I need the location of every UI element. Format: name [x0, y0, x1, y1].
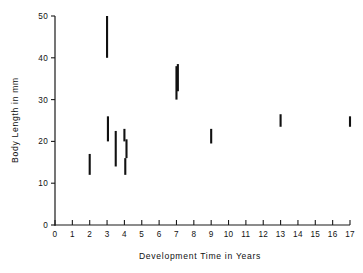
x-tick-label-8: 8 [191, 230, 196, 239]
chart-container: 01020304050 01234567891011121314151617 D… [0, 0, 363, 273]
x-tick-label-9: 9 [209, 230, 214, 239]
y-tick-label-30: 30 [38, 96, 48, 105]
x-axis-ticks [55, 220, 350, 225]
x-tick-label-12: 12 [258, 230, 268, 239]
x-tick-label-4: 4 [122, 230, 127, 239]
x-tick-label-17: 17 [345, 230, 355, 239]
x-tick-label-7: 7 [174, 230, 179, 239]
x-tick-label-15: 15 [310, 230, 320, 239]
y-axis-tick-labels: 01020304050 [38, 12, 48, 230]
x-tick-label-16: 16 [328, 230, 338, 239]
data-series-layer [90, 16, 350, 175]
y-tick-label-50: 50 [38, 12, 48, 21]
x-tick-label-3: 3 [105, 230, 110, 239]
y-axis: 01020304050 [38, 12, 55, 230]
x-axis-title: Development Time in Years [139, 251, 261, 261]
x-tick-label-6: 6 [157, 230, 162, 239]
y-axis-title: Body Length in mm [10, 77, 20, 163]
x-tick-label-13: 13 [276, 230, 286, 239]
body-length-vs-development-time-chart: 01020304050 01234567891011121314151617 D… [0, 0, 363, 273]
series-0 [90, 16, 350, 175]
x-tick-label-2: 2 [87, 230, 92, 239]
y-tick-label-10: 10 [38, 179, 48, 188]
y-tick-label-0: 0 [43, 221, 48, 230]
x-tick-label-11: 11 [241, 230, 250, 239]
y-tick-label-40: 40 [38, 54, 48, 63]
x-tick-label-5: 5 [139, 230, 144, 239]
x-axis-tick-labels: 01234567891011121314151617 [53, 230, 355, 239]
x-tick-label-10: 10 [224, 230, 234, 239]
x-tick-label-1: 1 [70, 230, 75, 239]
x-axis: 01234567891011121314151617 [53, 220, 355, 239]
x-tick-label-0: 0 [53, 230, 58, 239]
x-tick-label-14: 14 [293, 230, 303, 239]
y-tick-label-20: 20 [38, 137, 48, 146]
